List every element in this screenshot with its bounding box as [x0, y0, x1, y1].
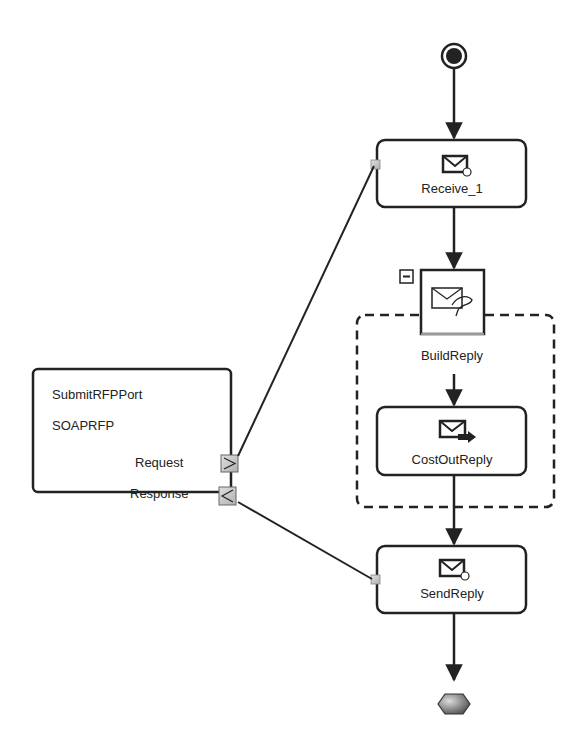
- receive-envelope-icon: [443, 156, 471, 176]
- sendreply-node-label: SendReply: [392, 586, 512, 601]
- port-type-label: SOAPRFP: [52, 418, 114, 433]
- start-event[interactable]: [442, 44, 466, 68]
- sendreply-connector[interactable]: [371, 575, 380, 584]
- partner-link-edges: [238, 166, 374, 579]
- send-envelope-icon: [440, 560, 469, 580]
- request-operation-label: Request: [135, 455, 183, 470]
- port-name-label: SubmitRFPPort: [52, 387, 142, 402]
- sendreply-node[interactable]: [377, 546, 526, 613]
- request-port[interactable]: [221, 455, 238, 472]
- end-event[interactable]: [438, 694, 470, 714]
- diagram-canvas: [0, 0, 587, 737]
- buildreply-node[interactable]: [421, 270, 484, 334]
- response-operation-label: Response: [130, 486, 189, 501]
- receive-node-label: Receive_1: [392, 181, 512, 196]
- buildreply-node-label: BuildReply: [392, 348, 512, 363]
- receive-node[interactable]: [377, 140, 526, 207]
- costoutreply-node-label: CostOutReply: [392, 452, 512, 467]
- response-port[interactable]: [219, 487, 236, 505]
- collapse-toggle[interactable]: [400, 270, 413, 283]
